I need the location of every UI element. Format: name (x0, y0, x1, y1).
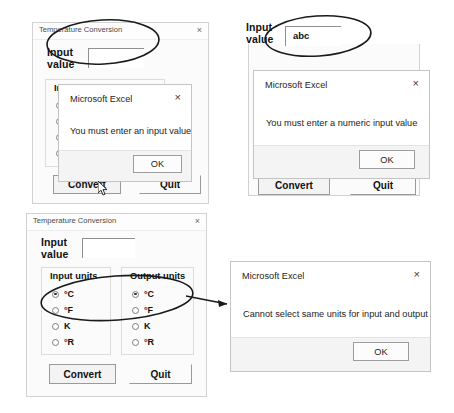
dialog-message-2: You must enter a numeric input value (266, 118, 417, 128)
output-units-title-3: Output units (130, 271, 185, 281)
input-value-textbox-2[interactable]: abc (285, 26, 341, 46)
convert-button-3[interactable]: Convert (49, 364, 116, 384)
sidebar-item-output-unit-c[interactable]: °C (132, 289, 154, 299)
output-unit-label: °C (144, 289, 154, 299)
dialog-title-1: Microsoft Excel (70, 94, 132, 104)
sidebar-item-input-unit-k[interactable]: K (52, 321, 71, 331)
radio-icon[interactable] (52, 307, 59, 314)
sidebar-item-input-unit-r[interactable]: °R (52, 337, 74, 347)
excel-message-box-3: Microsoft Excel × Cannot select same uni… (230, 261, 431, 372)
form-title-1: Temperature Conversion (39, 25, 122, 34)
input-unit-label: °R (64, 337, 74, 347)
radio-icon[interactable] (132, 307, 139, 314)
radio-icon[interactable] (52, 291, 59, 298)
form-title-3: Temperature Conversion (33, 216, 116, 225)
sidebar-item-input-unit-f[interactable]: °F (52, 305, 73, 315)
input-value-textbox-3[interactable] (82, 238, 135, 258)
dialog-ok-button-3[interactable]: OK (353, 342, 409, 361)
radio-icon[interactable] (132, 291, 139, 298)
input-value-textbox-1[interactable] (88, 48, 144, 68)
input-value-label-1: Input value (47, 47, 74, 70)
sidebar-item-input-unit-c[interactable]: °C (52, 289, 74, 299)
radio-icon[interactable] (52, 339, 59, 346)
sidebar-item-output-unit-r[interactable]: °R (132, 337, 154, 347)
radio-icon[interactable] (132, 339, 139, 346)
output-unit-label: K (144, 321, 151, 331)
input-value-label-2: Input value (246, 22, 273, 45)
input-unit-label: °C (64, 289, 74, 299)
output-units-groupbox-3: Output units °C °F K °R (121, 267, 194, 355)
excel-message-box-1: Microsoft Excel × You must enter an inpu… (58, 84, 192, 182)
sidebar-item-output-unit-f[interactable]: °F (132, 305, 153, 315)
input-value-label-3: Input value (41, 237, 68, 260)
close-icon[interactable]: × (195, 215, 200, 227)
input-units-groupbox-3: Input units °C °F K °R (41, 267, 111, 355)
output-unit-label: °F (144, 305, 153, 315)
figure-canvas: Temperature Conversion × Input value Inp… (0, 0, 454, 413)
dialog-message-1: You must enter an input value (70, 126, 191, 136)
close-icon[interactable]: × (414, 268, 420, 280)
output-unit-label: °R (144, 337, 154, 347)
input-units-title-3: Input units (50, 271, 98, 281)
radio-icon[interactable] (132, 323, 139, 330)
temperature-conversion-form-3: Temperature Conversion × Input value Inp… (26, 213, 207, 397)
close-icon[interactable]: × (175, 91, 181, 103)
excel-message-box-2: Microsoft Excel × You must enter a numer… (253, 70, 430, 179)
close-icon[interactable]: × (197, 24, 202, 36)
input-unit-label: °F (64, 305, 73, 315)
radio-icon[interactable] (52, 323, 59, 330)
close-icon[interactable]: × (413, 77, 419, 89)
input-value-text-2: abc (293, 30, 309, 41)
sidebar-item-output-unit-k[interactable]: K (132, 321, 151, 331)
form-titlebar-1: Temperature Conversion × (33, 23, 208, 40)
input-unit-label: K (64, 321, 71, 331)
dialog-ok-button-1[interactable]: OK (133, 155, 182, 173)
dialog-title-3: Microsoft Excel (242, 271, 304, 281)
quit-button-3[interactable]: Quit (129, 364, 192, 384)
form-titlebar-3: Temperature Conversion × (27, 214, 206, 231)
dialog-message-3: Cannot select same units for input and o… (243, 309, 428, 319)
dialog-title-2: Microsoft Excel (265, 80, 327, 90)
dialog-ok-button-2[interactable]: OK (359, 150, 415, 169)
